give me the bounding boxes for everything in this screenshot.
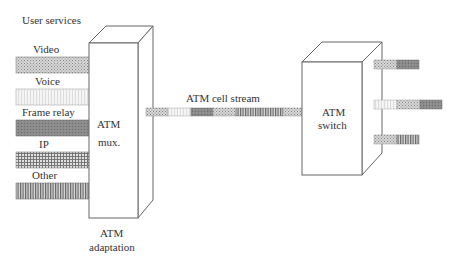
mux-label-mux: mux. — [98, 136, 121, 148]
user-services-title: User services — [22, 14, 81, 26]
stream-cell — [168, 108, 191, 116]
stream-cell — [213, 108, 236, 116]
service-label-ip: IP — [39, 138, 49, 150]
stream-cell — [146, 108, 168, 116]
stream-cell — [191, 108, 213, 116]
service-label-frame-relay: Frame relay — [22, 106, 75, 118]
service-label-other: Other — [32, 169, 57, 181]
stream-cell — [236, 108, 260, 116]
service-bar-frame-relay — [16, 120, 90, 136]
switch-label-switch: switch — [318, 119, 347, 131]
output-stream-1 — [374, 60, 419, 69]
cell-stream-label: ATM cell stream — [186, 92, 260, 104]
switch-label-atm: ATM — [322, 106, 345, 118]
output-cell — [374, 100, 397, 109]
service-bar-voice — [16, 89, 90, 105]
service-bar-ip — [16, 152, 90, 168]
adaptation-label-line2: adaptation — [89, 241, 135, 253]
adaptation-label-line1: ATM — [100, 227, 123, 239]
service-bar-other — [16, 183, 90, 199]
atm-cell-stream — [146, 108, 302, 116]
mux-side-face — [138, 26, 153, 218]
service-label-video: Video — [33, 43, 60, 55]
output-cell — [374, 135, 397, 144]
output-cell — [397, 100, 420, 109]
output-cell — [397, 135, 419, 144]
output-stream-2 — [374, 100, 442, 109]
atm-diagram: User services Video Voice Frame relay IP… — [0, 0, 456, 261]
output-cell — [420, 100, 442, 109]
output-cell — [374, 60, 397, 69]
output-cell — [397, 60, 419, 69]
mux-label-atm: ATM — [97, 118, 120, 130]
stream-cell — [283, 108, 302, 116]
service-label-voice: Voice — [35, 75, 60, 87]
mux-front-face — [89, 43, 138, 218]
output-stream-3 — [374, 135, 419, 144]
stream-cell — [260, 108, 283, 116]
service-bar-video — [16, 57, 90, 73]
